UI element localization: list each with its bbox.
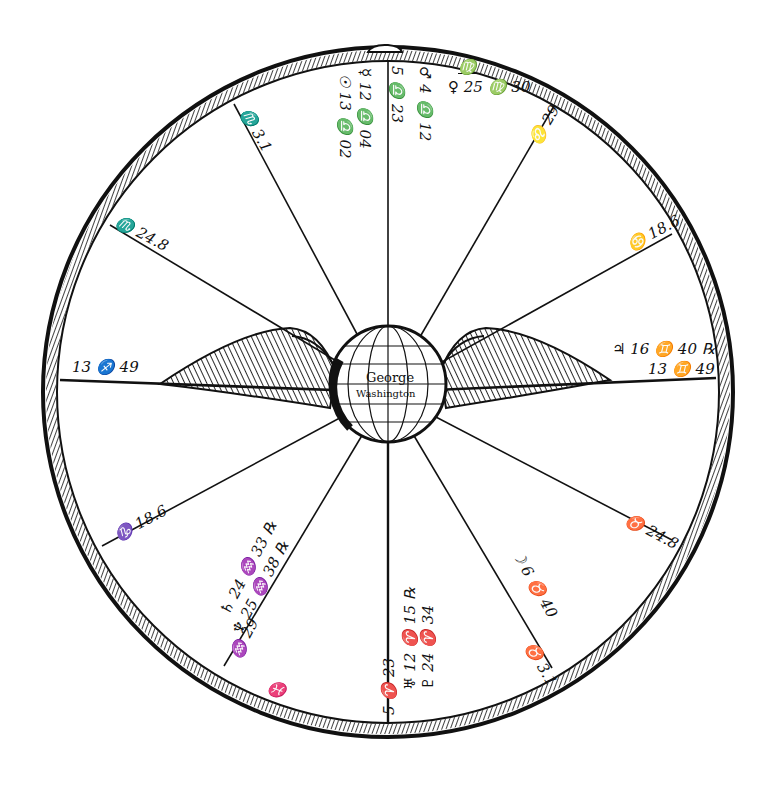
horoscope-chart: George Washington 13 ♐ 49 ♑ 18.6 ♓ 5 ♈ 2… xyxy=(0,0,777,789)
cusp-label-ic: 5 ♈ 23 xyxy=(382,658,397,715)
cusp-label-ascendant: 13 ♐ 49 xyxy=(72,360,139,375)
planet-venus: ♀ 25 ♍ 30 xyxy=(448,80,530,95)
planet-mercury: ☿ 12 ♎ 04 xyxy=(357,68,372,149)
planet-uranus: ♅ 12 ♈ 15 ℞ xyxy=(403,587,418,690)
planet-jupiter: ♃ 16 ♊ 40 ℞ xyxy=(612,342,715,357)
right-wing xyxy=(440,328,610,408)
planet-pluto: ♇ 24 ♈ 34 xyxy=(421,605,436,690)
planet-sun: ☉ 13 ♎ 02 xyxy=(337,74,352,158)
globe-name-last: Washington xyxy=(356,388,415,399)
planet-mars: ♂ 4 ♎ 12 xyxy=(417,66,432,141)
globe-name-first: George xyxy=(366,370,414,385)
sign-marker-virgo: ♍ xyxy=(458,60,477,75)
cusp-label-descendant: 13 ♊ 49 xyxy=(648,362,715,377)
cusp-label-mc: 5 ♎ 23 xyxy=(389,66,404,123)
